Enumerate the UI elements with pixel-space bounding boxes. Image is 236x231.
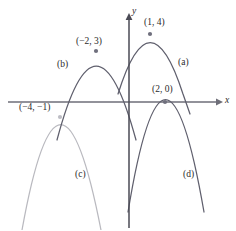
parabolas-figure: x y (1, 4) (−2, 3) (2, 0) (−4, −1) (a) (… xyxy=(0,0,236,230)
curve-label-a: (a) xyxy=(178,58,189,68)
curve-c xyxy=(22,125,101,231)
vertex-marker-d xyxy=(163,100,167,104)
vertex-label-a: (1, 4) xyxy=(144,18,165,28)
curve-label-c: (c) xyxy=(75,170,86,180)
vertex-marker-b xyxy=(94,49,98,53)
graph-canvas xyxy=(0,0,236,230)
curve-d xyxy=(128,100,204,213)
vertex-marker-c xyxy=(58,115,62,119)
curve-label-d: (d) xyxy=(183,170,194,180)
x-axis-label: x xyxy=(225,96,229,106)
vertex-label-d: (2, 0) xyxy=(152,85,173,95)
x-axis-arrowhead xyxy=(216,99,223,106)
y-axis-label: y xyxy=(132,7,136,17)
vertex-label-c: (−4, −1) xyxy=(19,103,50,113)
vertex-marker-a xyxy=(148,32,152,36)
curve-label-b: (b) xyxy=(57,60,68,70)
vertex-label-b: (−2, 3) xyxy=(76,37,102,47)
